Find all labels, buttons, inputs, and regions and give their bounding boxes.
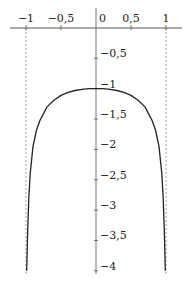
y-tick-label: −4 (100, 260, 116, 273)
chart: −1−0,500,51−0,5−1−1,5−2−2,5−3−3,5−4 (0, 0, 188, 284)
x-tick-label: 1 (163, 12, 170, 25)
y-tick-label: −3,5 (100, 229, 127, 242)
y-tick-label: −3 (100, 199, 116, 212)
y-tick-label: −0,5 (100, 47, 127, 60)
x-tick-label: 0 (99, 12, 106, 25)
x-tick-label: −1 (18, 12, 34, 25)
axes (10, 8, 182, 276)
y-tick-label: −2 (100, 138, 116, 151)
x-tick-label: 0,5 (122, 12, 140, 25)
ticks: −1−0,500,51−0,5−1−1,5−2−2,5−3−3,5−4 (18, 12, 170, 273)
x-tick-label: −0,5 (48, 12, 75, 25)
y-tick-label: −1,5 (100, 108, 127, 121)
y-tick-label: −2,5 (100, 169, 127, 182)
